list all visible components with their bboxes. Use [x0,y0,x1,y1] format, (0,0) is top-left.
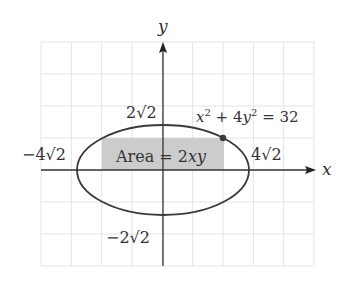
corner-point [220,135,226,141]
area-label: Area = 2xy [115,147,207,166]
x-axis-label: x [322,159,332,179]
y-bottom-label: −2√2 [106,228,150,247]
ellipse-diagram: y x 2√2 −2√2 −4√2 4√2 Area = 2xy x2 + 4y… [0,0,351,282]
x-left-label: −4√2 [22,145,66,164]
x-right-label: 4√2 [251,145,282,164]
y-axis-label: y [157,16,168,36]
ellipse-equation: x2 + 4y2 = 32 [196,107,299,126]
y-top-label: 2√2 [126,103,157,122]
